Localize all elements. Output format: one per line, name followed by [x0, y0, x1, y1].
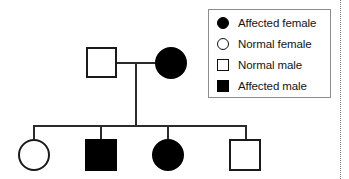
individual-mother-affected-female: [155, 47, 187, 79]
legend-label: Normal male: [238, 59, 302, 71]
legend: Affected female Normal female Normal mal…: [208, 9, 331, 98]
legend-label: Normal female: [238, 38, 311, 50]
individual-child1-normal-female: [18, 139, 50, 171]
sibship-line: [33, 125, 246, 127]
legend-item-normal-female: Normal female: [217, 34, 311, 54]
filled-circle-icon: [217, 17, 229, 29]
open-square-icon: [217, 59, 229, 71]
pedigree-diagram: Affected female Normal female Normal mal…: [0, 0, 349, 179]
individual-child3-affected-female: [152, 139, 184, 171]
individual-child2-affected-male: [85, 139, 117, 171]
child-drop-line-1: [33, 125, 35, 139]
legend-label: Affected female: [238, 17, 316, 29]
individual-father-normal-male: [86, 47, 117, 78]
individual-child4-normal-male: [229, 139, 261, 171]
legend-item-normal-male: Normal male: [217, 55, 302, 75]
descent-line: [135, 62, 137, 126]
legend-item-affected-female: Affected female: [217, 13, 316, 33]
filled-square-icon: [217, 80, 229, 92]
open-circle-icon: [217, 38, 229, 50]
child-drop-line-3: [167, 125, 169, 139]
legend-label: Affected male: [238, 80, 307, 92]
child-drop-line-4: [245, 125, 247, 139]
child-drop-line-2: [100, 125, 102, 139]
page-edge-dotted-rule: [340, 0, 341, 179]
legend-item-affected-male: Affected male: [217, 76, 307, 96]
